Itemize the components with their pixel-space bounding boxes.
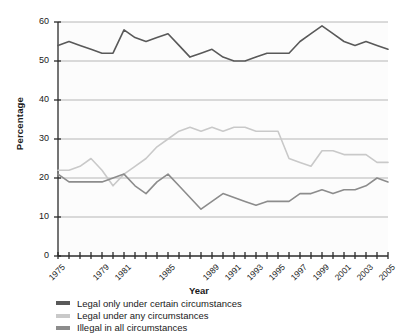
y-tick-label: 20 — [25, 172, 49, 182]
legend-item: Legal only under certain circumstances — [56, 297, 386, 309]
legend-label: Legal under any circumstances — [77, 310, 209, 321]
y-tick-label: 30 — [25, 133, 49, 143]
legend-swatch-icon — [56, 301, 70, 305]
y-tick-label: 60 — [25, 16, 49, 26]
legend-item: Illegal in all circumstances — [56, 322, 386, 334]
chart-legend: Legal only under certain circumstancesLe… — [56, 297, 386, 334]
legend-label: Illegal in all circumstances — [77, 322, 187, 333]
x-axis-title: Year — [0, 285, 398, 296]
y-tick-label: 50 — [25, 55, 49, 65]
legend-swatch-icon — [56, 326, 70, 330]
y-axis-title: Percentage — [14, 79, 25, 169]
legend-item: Legal under any circumstances — [56, 309, 386, 321]
legend-label: Legal only under certain circumstances — [77, 298, 242, 309]
y-tick-label: 40 — [25, 94, 49, 104]
legend-swatch-icon — [56, 314, 70, 318]
y-tick-label: 10 — [25, 211, 49, 221]
y-tick-label: 0 — [25, 250, 49, 260]
line-chart: Percentage Year 0102030405060 1975197919… — [0, 0, 398, 335]
